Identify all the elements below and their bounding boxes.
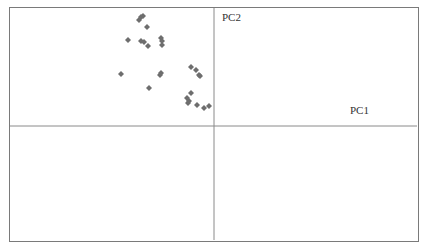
- x-axis-label: PC1: [350, 104, 369, 116]
- data-point-marker: [188, 64, 194, 70]
- data-point-marker: [159, 42, 165, 48]
- y-axis-label: PC2: [222, 11, 241, 23]
- data-point-marker: [193, 67, 199, 73]
- data-point-marker: [145, 43, 151, 49]
- data-point-marker: [146, 85, 152, 91]
- data-point-marker: [144, 24, 150, 30]
- data-point-marker: [188, 90, 194, 96]
- data-point-marker: [118, 71, 124, 77]
- data-point-marker: [194, 102, 200, 108]
- data-point-marker: [125, 37, 131, 43]
- data-points: [118, 13, 212, 111]
- scatter-plot: [0, 0, 427, 248]
